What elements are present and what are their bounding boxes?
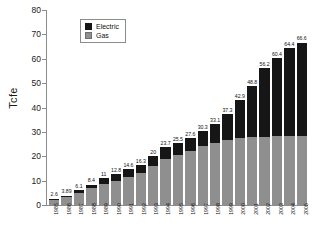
bar-segment-electric[interactable]: [111, 174, 121, 181]
x-label-column: 1999: [223, 207, 235, 235]
bar-segment-gas[interactable]: [173, 155, 183, 205]
bar-segment-gas[interactable]: [235, 138, 245, 205]
bar-value-label: 60.4: [272, 52, 282, 57]
x-label-column: 2003: [272, 207, 284, 235]
legend-label-electric: Electric: [96, 23, 119, 30]
bar-segment-gas[interactable]: [247, 137, 257, 205]
bar-column[interactable]: 23.7: [159, 10, 171, 205]
bar-stack[interactable]: 60.4: [272, 58, 282, 205]
legend-item-electric: Electric: [85, 23, 119, 30]
bar-column[interactable]: 16.3: [135, 10, 147, 205]
bar-value-label: 66.6: [297, 36, 307, 41]
bar-column[interactable]: 27.6: [184, 10, 196, 205]
x-label-column: 1986: [60, 207, 72, 235]
bar-segment-electric[interactable]: [284, 48, 294, 136]
x-label-column: 1987: [73, 207, 85, 235]
y-tick-mark: [42, 156, 47, 157]
bar-stack[interactable]: 48.8: [247, 86, 257, 205]
bar-segment-gas[interactable]: [259, 137, 269, 205]
bar-segment-electric[interactable]: [235, 100, 245, 138]
x-tick-label: 1994: [166, 203, 171, 215]
bar-stack[interactable]: 20: [148, 156, 158, 205]
bar-segment-electric[interactable]: [123, 169, 133, 177]
bar-segment-electric[interactable]: [210, 124, 220, 142]
bar-value-label: 42.9: [235, 94, 245, 99]
bar-stack[interactable]: 42.9: [235, 100, 245, 205]
x-label-column: 1995: [173, 207, 185, 235]
bar-segment-gas[interactable]: [111, 181, 121, 205]
x-tick-label: 1996: [191, 203, 196, 215]
bar-segment-gas[interactable]: [297, 136, 307, 205]
bar-segment-electric[interactable]: [297, 43, 307, 136]
bar-column[interactable]: 3.89: [60, 10, 72, 205]
bar-value-label: 6.1: [75, 184, 82, 189]
bar-value-label: 30.3: [198, 125, 208, 130]
chart-legend: Electric Gas: [80, 19, 126, 43]
x-label-column: 1993: [148, 207, 160, 235]
bar-stack[interactable]: 11: [99, 178, 109, 205]
bar-stack[interactable]: 30.3: [198, 131, 208, 205]
bar-segment-electric[interactable]: [259, 68, 269, 136]
bar-stack[interactable]: 66.6: [297, 43, 307, 205]
bar-segment-electric[interactable]: [272, 58, 282, 136]
bar-segment-electric[interactable]: [160, 147, 170, 158]
bar-column[interactable]: 56.2: [258, 10, 270, 205]
y-tick-label: 20: [32, 151, 41, 161]
bar-column[interactable]: 20: [147, 10, 159, 205]
bar-column[interactable]: 64.4: [283, 10, 295, 205]
bar-column[interactable]: 60.4: [271, 10, 283, 205]
bar-segment-gas[interactable]: [160, 159, 170, 205]
bar-segment-gas[interactable]: [148, 166, 158, 205]
bar-segment-electric[interactable]: [148, 156, 158, 165]
bar-stack[interactable]: 33.1: [210, 124, 220, 205]
bar-column[interactable]: 33.1: [209, 10, 221, 205]
bar-stack[interactable]: 64.4: [284, 48, 294, 205]
bar-segment-gas[interactable]: [185, 151, 195, 205]
legend-label-gas: Gas: [96, 32, 109, 39]
x-tick-label: 2001: [254, 203, 259, 215]
x-label-column: 2004: [285, 207, 297, 235]
bar-segment-electric[interactable]: [173, 143, 183, 155]
bar-stack[interactable]: 25.5: [173, 143, 183, 205]
x-tick-label: 1992: [142, 203, 147, 215]
bar-segment-electric[interactable]: [185, 138, 195, 151]
bar-value-label: 48.8: [247, 80, 257, 85]
bar-segment-electric[interactable]: [247, 86, 257, 137]
bar-column[interactable]: 37.3: [221, 10, 233, 205]
bar-column[interactable]: 42.9: [234, 10, 246, 205]
bar-column[interactable]: 2.6: [48, 10, 60, 205]
bar-value-label: 25.5: [173, 137, 183, 142]
x-label-column: 2002: [260, 207, 272, 235]
bar-segment-gas[interactable]: [210, 143, 220, 205]
x-tick-label: 1995: [179, 203, 184, 215]
bar-stack[interactable]: 12.8: [111, 174, 121, 205]
bar-segment-gas[interactable]: [198, 146, 208, 205]
bar-value-label: 11: [101, 172, 106, 177]
bar-segment-electric[interactable]: [222, 114, 232, 140]
x-axis-labels: 1985198619871988198919901991199219931994…: [48, 207, 310, 235]
bar-segment-gas[interactable]: [123, 177, 133, 205]
bar-stack[interactable]: 16.3: [136, 165, 146, 205]
bar-column[interactable]: 66.6: [296, 10, 308, 205]
x-label-column: 2001: [248, 207, 260, 235]
legend-swatch-electric: [85, 23, 92, 30]
bar-column[interactable]: 48.8: [246, 10, 258, 205]
bar-column[interactable]: 30.3: [197, 10, 209, 205]
bar-segment-gas[interactable]: [136, 173, 146, 205]
bar-segment-electric[interactable]: [198, 131, 208, 146]
bar-column[interactable]: 25.5: [172, 10, 184, 205]
bar-segment-gas[interactable]: [272, 136, 282, 205]
bar-stack[interactable]: 56.2: [259, 68, 269, 205]
x-label-column: 1988: [85, 207, 97, 235]
bar-segment-gas[interactable]: [284, 136, 294, 205]
bar-stack[interactable]: 27.6: [185, 138, 195, 205]
y-tick-label: 50: [32, 78, 41, 88]
bar-segment-electric[interactable]: [136, 165, 146, 173]
bar-value-label: 20: [150, 150, 156, 155]
y-tick-mark: [42, 83, 47, 84]
bar-stack[interactable]: 14.6: [123, 169, 133, 205]
bar-stack[interactable]: 37.3: [222, 114, 232, 205]
x-tick-label: 1985: [54, 203, 59, 215]
bar-segment-gas[interactable]: [222, 140, 232, 205]
bar-stack[interactable]: 23.7: [160, 147, 170, 205]
